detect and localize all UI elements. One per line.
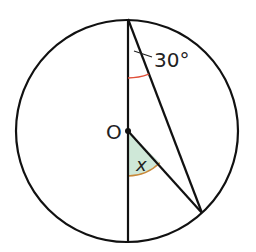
- circle-diagram: O 30° x: [0, 0, 256, 252]
- unknown-angle-label: x: [135, 154, 147, 175]
- centre-label: O: [106, 120, 122, 144]
- given-angle-label: 30°: [154, 48, 189, 72]
- centre-point: [125, 128, 131, 134]
- angle-30-arc: [128, 74, 149, 78]
